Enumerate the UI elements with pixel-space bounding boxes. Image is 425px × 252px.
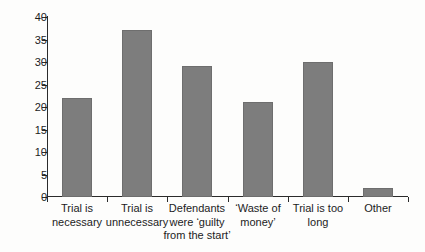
x-axis-category-label: Defendants were ‘guilty from the start’ [163,202,231,243]
bar [303,62,333,197]
x-axis-category-label: Trial is necessary [43,202,111,229]
x-axis-category-label: Other [344,202,412,216]
x-axis-category-label: ‘Waste of money’ [224,202,292,229]
x-axis-category-label: Trial is unnecessary [103,202,171,229]
y-axis-tick-label: 40 [9,12,47,23]
x-axis-category-label: Trial is too long [284,202,352,229]
y-axis-tick-label: 25 [9,80,47,91]
bar [62,98,92,197]
y-axis-tick-label: 5 [9,170,47,181]
bar [243,102,273,197]
y-axis-tick-label: 10 [9,147,47,158]
y-axis-tick-label: 35 [9,35,47,46]
bar [122,30,152,197]
y-axis-tick-label: 20 [9,102,47,113]
y-axis-tick-label: 15 [9,125,47,136]
y-axis-tick-label: 0 [9,192,47,203]
y-axis-line [47,16,48,197]
bar [363,188,393,197]
bar [182,66,212,197]
y-axis-tick-label: 30 [9,57,47,68]
bar-chart: 0510152025303540 Trial is necessaryTrial… [0,0,425,252]
